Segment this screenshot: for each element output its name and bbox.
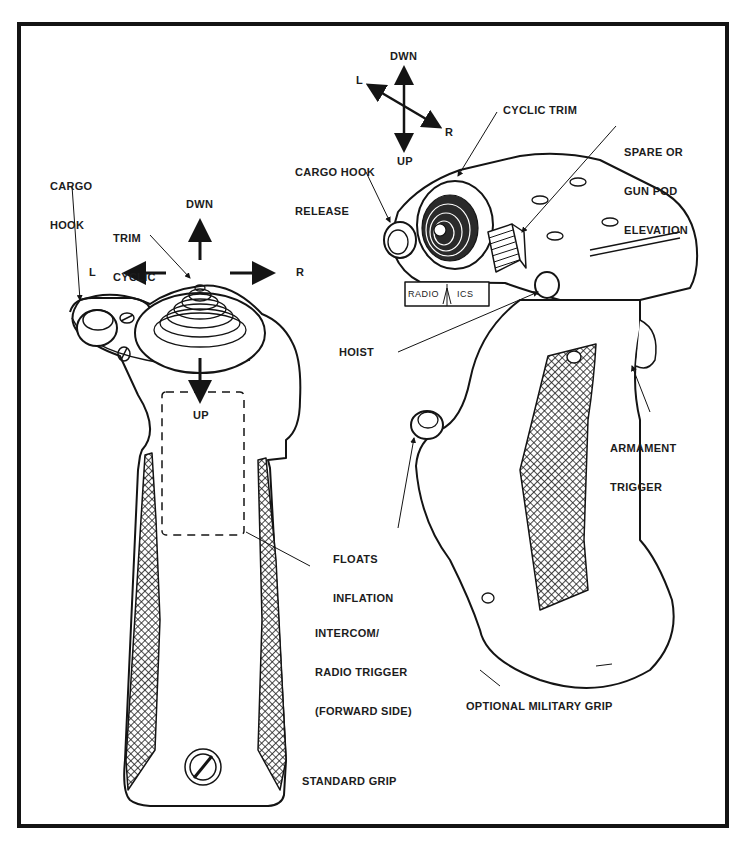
label-std-up: UP	[193, 409, 209, 422]
label-std-l: L	[89, 266, 96, 279]
label-hoist: HOIST	[339, 346, 374, 359]
label-trim-cyclic: TRIM CYCLIC	[113, 206, 156, 310]
hoist-button	[535, 272, 559, 298]
label-std-dwn: DWN	[186, 198, 213, 211]
label-armament-trigger: ARMAMENT TRIGGER	[610, 416, 677, 520]
label-mil-l: L	[356, 74, 363, 87]
label-cargo-hook: CARGO HOOK	[50, 154, 92, 258]
label-spare-gun-pod-elevation: SPARE OR GUN POD ELEVATION	[624, 120, 688, 263]
grip-diagram: CARGO HOOK TRIM CYCLIC DWN L R UP INTERC…	[0, 0, 741, 845]
label-std-r: R	[296, 266, 304, 279]
caption-standard-grip: STANDARD GRIP	[302, 775, 397, 788]
cyclic-trim-wheel	[422, 195, 478, 261]
label-switch-ics: ICS	[457, 288, 474, 301]
floats-inflation-button	[411, 411, 443, 439]
label-mil-r: R	[445, 126, 453, 139]
caption-optional-military-grip: OPTIONAL MILITARY GRIP	[466, 700, 613, 713]
label-mil-dwn: DWN	[390, 50, 417, 63]
label-cyclic-trim: CYCLIC TRIM	[503, 104, 577, 117]
label-floats-inflation: FLOATS INFLATION	[333, 527, 394, 631]
cargo-hook-release-button	[384, 222, 416, 258]
label-cargo-hook-release: CARGO HOOK RELEASE	[295, 140, 375, 244]
label-mil-up: UP	[397, 155, 413, 168]
label-switch-radio: RADIO	[408, 288, 439, 301]
standard-grip	[70, 186, 310, 806]
